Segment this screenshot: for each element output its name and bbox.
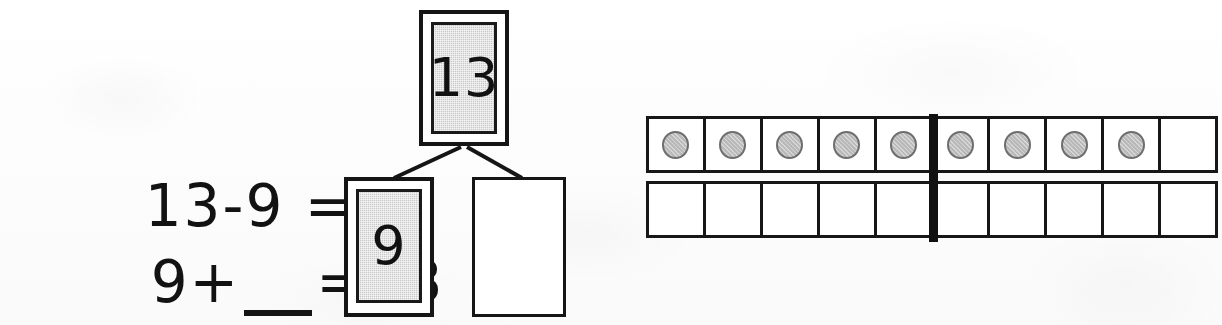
ten-frame-cell-top-3[interactable] bbox=[760, 116, 820, 173]
counter-dot bbox=[947, 131, 974, 159]
ten-frame-cell-top-10[interactable] bbox=[1158, 116, 1218, 173]
ten-frame-midline-divider bbox=[929, 114, 938, 242]
number-bond-part-two-box[interactable] bbox=[472, 177, 566, 317]
counter-dot bbox=[833, 131, 860, 159]
counter-dot bbox=[662, 131, 689, 159]
ten-frame-cell-bottom-10[interactable] bbox=[1158, 181, 1218, 238]
number-bond-part-one-box[interactable]: 9 bbox=[344, 177, 434, 317]
equation-block: 13-9 = 9+=13 bbox=[18, 104, 318, 248]
counter-dot bbox=[1004, 131, 1031, 159]
number-bond-diagram: 13 9 bbox=[336, 0, 594, 325]
number-bond-part-one-value: 9 bbox=[371, 219, 406, 273]
counter-dot bbox=[1061, 131, 1088, 159]
ten-frame-cell-bottom-3[interactable] bbox=[760, 181, 820, 238]
ten-frame-cell-bottom-9[interactable] bbox=[1101, 181, 1161, 238]
ten-frame-cell-top-6[interactable] bbox=[931, 116, 991, 173]
counter-dot bbox=[890, 131, 917, 159]
number-bond-whole-shading: 13 bbox=[431, 22, 497, 134]
ten-frame-cell-top-2[interactable] bbox=[703, 116, 763, 173]
number-bond-part-one-shading: 9 bbox=[356, 189, 422, 303]
connector-line-left bbox=[394, 147, 461, 178]
ten-frame-cell-bottom-8[interactable] bbox=[1044, 181, 1104, 238]
counter-dot bbox=[776, 131, 803, 159]
ten-frame-cell-top-1[interactable] bbox=[646, 116, 706, 173]
ten-frame-cell-bottom-5[interactable] bbox=[874, 181, 934, 238]
ten-frame-cell-top-8[interactable] bbox=[1044, 116, 1104, 173]
equation-line-addition: 9+=13 bbox=[18, 180, 318, 248]
equation-line-subtraction: 13-9 = bbox=[18, 104, 318, 172]
counter-dot bbox=[719, 131, 746, 159]
ten-frame-cell-bottom-1[interactable] bbox=[646, 181, 706, 238]
equation-addend: 9 bbox=[151, 248, 190, 316]
number-bond-whole-value: 13 bbox=[429, 51, 500, 105]
ten-frame-cell-top-9[interactable] bbox=[1101, 116, 1161, 173]
equation-missing-addend-blank[interactable] bbox=[244, 310, 312, 316]
worksheet-page: 13-9 = 9+=13 13 9 bbox=[0, 0, 1222, 325]
number-bond-whole-box[interactable]: 13 bbox=[419, 10, 509, 146]
connector-line-right bbox=[467, 147, 522, 178]
counter-dot bbox=[1118, 131, 1145, 159]
ten-frame-cell-top-4[interactable] bbox=[817, 116, 877, 173]
ten-frame-cell-bottom-7[interactable] bbox=[987, 181, 1047, 238]
double-ten-frame bbox=[646, 116, 1218, 240]
ten-frame-cell-top-5[interactable] bbox=[874, 116, 934, 173]
ten-frame-cell-bottom-4[interactable] bbox=[817, 181, 877, 238]
ten-frame-cell-bottom-6[interactable] bbox=[931, 181, 991, 238]
equation-plus-sign: + bbox=[190, 248, 241, 316]
ten-frame-cell-top-7[interactable] bbox=[987, 116, 1047, 173]
ten-frame-cell-bottom-2[interactable] bbox=[703, 181, 763, 238]
